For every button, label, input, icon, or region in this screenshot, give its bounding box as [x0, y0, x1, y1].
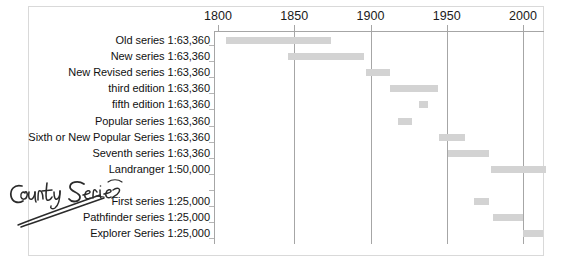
bar-0	[226, 37, 331, 44]
category-tickmark-7	[209, 158, 214, 159]
category-label-7: Seventh series 1:63,360	[93, 147, 211, 159]
category-label-5: Popular series 1:63,360	[95, 115, 210, 127]
category-label-2: New Revised series 1:63,360	[68, 66, 210, 78]
category-label-11: Pathfinder series 1:25,000	[83, 211, 210, 223]
x-axis-tickmark-1800	[218, 25, 219, 32]
category-label-10: First series 1:25,000	[111, 195, 210, 207]
bar-7	[448, 150, 489, 157]
category-tickmark-10	[209, 206, 214, 207]
bar-6	[439, 134, 465, 141]
gridline-2000	[523, 31, 524, 244]
bar-5	[398, 118, 412, 125]
category-label-12: Explorer Series 1:25,000	[90, 227, 210, 239]
category-label-1: New series 1:63,360	[111, 50, 210, 62]
category-tickmark-8	[209, 174, 214, 175]
category-tickmark-6	[209, 142, 214, 143]
bar-8	[491, 166, 546, 173]
category-label-6: Sixth or New Popular Series 1:63,360	[28, 131, 210, 143]
category-tickmark-2	[209, 77, 214, 78]
category-tickmark-5	[209, 126, 214, 127]
category-tickmark-11	[209, 222, 214, 223]
chart-plot-area: Old series 1:63,360New series 1:63,360Ne…	[0, 0, 572, 266]
bar-12	[523, 230, 543, 237]
category-tickmark-12	[209, 238, 214, 239]
bar-1	[288, 53, 364, 60]
category-label-4: fifth edition 1:63,360	[112, 98, 210, 110]
category-label-3: third edition 1:63,360	[108, 82, 210, 94]
bar-10	[474, 198, 489, 205]
bar-11	[493, 214, 524, 221]
bar-4	[419, 101, 428, 108]
category-label-0: Old series 1:63,360	[116, 34, 210, 46]
category-tickmark-4	[209, 109, 214, 110]
gridline-1850	[294, 31, 295, 244]
x-axis-line	[214, 31, 544, 32]
category-tickmark-0	[209, 45, 214, 46]
category-tickmark-3	[209, 93, 214, 94]
category-axis-line	[214, 31, 215, 244]
bar-2	[366, 69, 390, 76]
category-tickmark-9	[209, 190, 214, 191]
category-tickmark-1	[209, 61, 214, 62]
gridline-1900	[371, 31, 372, 244]
bar-3	[390, 85, 437, 92]
category-label-8: Landranger 1:50,000	[109, 163, 210, 175]
